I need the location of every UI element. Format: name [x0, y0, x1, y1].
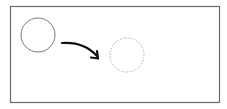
diagram-frame	[11, 7, 220, 103]
diagram-canvas	[0, 0, 227, 109]
